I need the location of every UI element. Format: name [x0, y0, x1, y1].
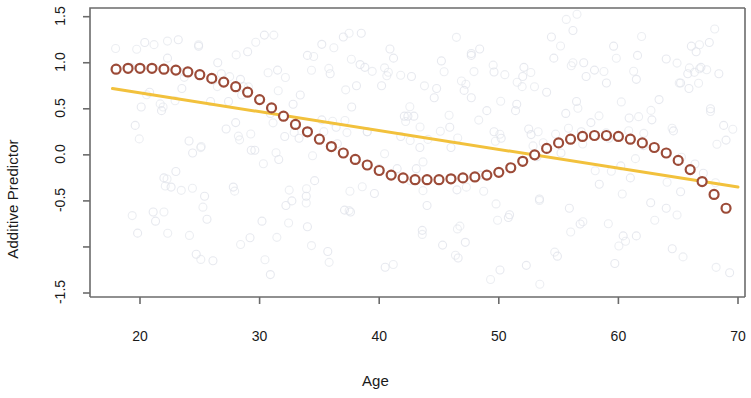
- y-tick-label: 1.5: [52, 0, 68, 36]
- y-tick-label: 1.0: [52, 42, 68, 82]
- y-axis-title: Additive Predictor: [0, 0, 26, 398]
- y-tick-label: -0.5: [52, 180, 68, 220]
- additive-predictor-figure: Age Additive Predictor 203040506070 1.51…: [0, 0, 751, 398]
- x-tick-label: 20: [132, 328, 148, 344]
- axis-ticks-layer: [83, 17, 738, 304]
- x-tick-label: 60: [611, 328, 627, 344]
- x-tick-label: 50: [491, 328, 507, 344]
- x-tick-label: 40: [371, 328, 387, 344]
- x-axis-title: Age: [0, 372, 751, 389]
- x-tick-label: 70: [730, 328, 746, 344]
- x-tick-label: 30: [252, 328, 268, 344]
- partial-residual-scatter-layer: [112, 10, 737, 288]
- y-tick-label: 0.0: [52, 134, 68, 174]
- y-tick-label: -1.5: [52, 272, 68, 312]
- y-tick-label: 0.5: [52, 88, 68, 128]
